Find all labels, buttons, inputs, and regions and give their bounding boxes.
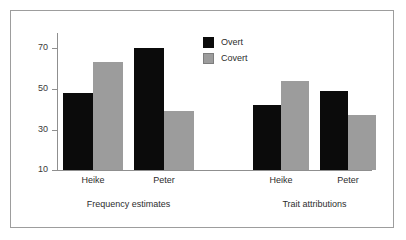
bar-slot-p1-c0-covert xyxy=(281,0,309,170)
bar-slot-p0-c0-overt xyxy=(63,0,93,170)
bars-layer xyxy=(0,0,406,170)
x-label-frequency-heike: Heike xyxy=(63,175,123,186)
bar-slot-p0-c0-covert xyxy=(93,0,123,170)
panel-label-trait-attributions: Trait attributions xyxy=(253,199,376,210)
bar-trait-heike-covert[interactable] xyxy=(281,81,309,170)
bar-trait-heike-overt[interactable] xyxy=(253,105,281,170)
bar-frequency-peter-covert[interactable] xyxy=(164,111,194,170)
x-label-frequency-peter: Peter xyxy=(134,175,194,186)
bar-trait-peter-covert[interactable] xyxy=(348,115,376,170)
bar-frequency-heike-covert[interactable] xyxy=(93,62,123,170)
bar-slot-p0-c1-covert xyxy=(164,0,194,170)
plot-area: 70 50 30 10 xyxy=(0,0,406,240)
legend-label-overt: Overt xyxy=(221,37,243,47)
bar-slot-p1-c0-overt xyxy=(253,0,281,170)
x-label-trait-heike: Heike xyxy=(253,175,309,186)
legend-item-overt[interactable]: Overt xyxy=(203,34,293,50)
legend-label-covert: Covert xyxy=(221,53,248,63)
panel-label-frequency-estimates: Frequency estimates xyxy=(63,199,194,210)
bar-slot-p1-c1-covert xyxy=(348,0,376,170)
legend-swatch-overt-icon xyxy=(203,37,214,48)
y-tick-mark-10 xyxy=(52,170,58,171)
bar-slot-p0-c1-overt xyxy=(134,0,164,170)
x-axis-line xyxy=(57,170,372,171)
legend: Overt Covert xyxy=(203,34,293,66)
legend-swatch-covert-icon xyxy=(203,53,214,64)
bar-frequency-peter-overt[interactable] xyxy=(134,48,164,170)
x-label-trait-peter: Peter xyxy=(320,175,376,186)
bar-trait-peter-overt[interactable] xyxy=(320,91,348,170)
bar-frequency-heike-overt[interactable] xyxy=(63,93,93,170)
legend-item-covert[interactable]: Covert xyxy=(203,50,293,66)
y-tick-10: 10 xyxy=(0,170,58,171)
chart-figure: 70 50 30 10 xyxy=(0,0,406,240)
bar-slot-p1-c1-overt xyxy=(320,0,348,170)
